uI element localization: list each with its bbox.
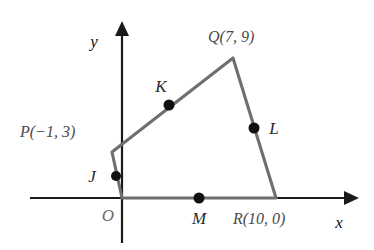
point-q-label: Q(7, 9) [208,28,254,46]
point-r-label: R(10, 0) [232,210,285,228]
point-l-label: L [268,119,278,138]
point-j-dot [111,171,121,181]
point-j-label: J [88,167,97,186]
x-axis-label: x [334,213,343,232]
geometry-figure: y x O P(−1, 3) Q(7, 9) R(10, 0) J K L M [0,0,374,250]
y-axis-label: y [88,32,98,51]
point-m-dot [194,193,205,204]
point-k-dot [164,100,175,111]
y-axis-arrowhead [115,21,129,36]
origin-label: O [102,206,114,225]
point-p-label: P(−1, 3) [19,123,75,141]
x-axis-arrowhead [344,191,359,205]
point-m-label: M [191,209,207,228]
coordinate-plane-svg: y x O P(−1, 3) Q(7, 9) R(10, 0) J K L M [0,0,374,250]
point-l-dot [249,123,260,134]
point-k-label: K [154,77,168,96]
